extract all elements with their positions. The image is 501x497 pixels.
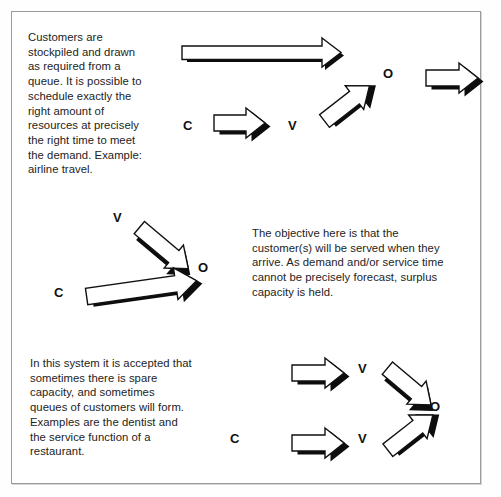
label-c-bottom-panel: C [230,432,239,445]
label-v-top-panel: V [288,119,297,132]
label-c-top-panel: C [183,119,192,132]
label-v-bottom-panel-bottom: V [358,432,367,445]
paragraph-mixed-capacity: In this system it is accepted that somet… [30,356,210,459]
label-v-bottom-panel-top: V [358,362,367,375]
label-o-bottom-panel: O [430,400,440,413]
label-o-middle-panel: O [198,261,208,274]
label-o-top-panel: O [383,67,393,80]
label-v-middle-panel: V [113,211,122,224]
paragraph-level-capacity: Customers are stockpiled and drawn as re… [28,30,178,177]
label-c-middle-panel: C [54,286,63,299]
paragraph-chase-capacity: The objective here is that the customer(… [252,226,467,300]
diagram-page: Customers are stockpiled and drawn as re… [0,0,501,497]
